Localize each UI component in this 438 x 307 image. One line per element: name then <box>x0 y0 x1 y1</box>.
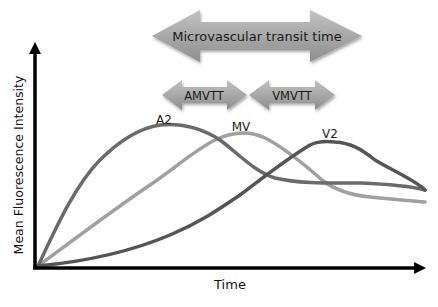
microvascular-transit-time-arrow: Microvascular transit time <box>152 10 362 62</box>
y-axis-label: Mean Fluorescence Intensity <box>11 75 26 254</box>
a2-curve-label: A2 <box>156 113 172 127</box>
vmvtt-label: VMVTT <box>272 89 312 103</box>
x-axis <box>33 262 426 274</box>
v2-curve-label: V2 <box>322 127 338 141</box>
transit-time-diagram: Microvascular transit time AMVTT VMVTT A… <box>0 0 438 307</box>
vmvtt-arrow: VMVTT <box>249 80 335 110</box>
amvtt-label: AMVTT <box>184 89 224 103</box>
arrow-right-icon <box>414 262 426 274</box>
x-axis-label: Time <box>213 277 246 292</box>
arrow-up-icon <box>29 42 41 54</box>
v2-curve <box>38 141 425 266</box>
amvtt-arrow: AMVTT <box>162 80 247 110</box>
y-axis <box>29 42 41 268</box>
mv-curve-label: MV <box>232 120 251 134</box>
microvascular-transit-time-label: Microvascular transit time <box>172 29 342 44</box>
